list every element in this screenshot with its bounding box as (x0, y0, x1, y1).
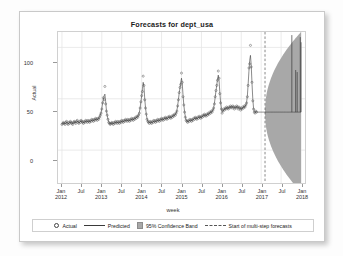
x-tick-mark (182, 184, 183, 187)
legend-label-actual: Actual (62, 223, 76, 229)
y-tick-label-100: 100 (3, 60, 33, 66)
x-tick-line2: 2014 (135, 194, 147, 200)
x-tick-mark (262, 184, 263, 187)
x-tick-line1: Jul (238, 188, 245, 194)
x-tick-line2: 2012 (55, 194, 67, 200)
x-tick-label: Jan2018 (287, 188, 317, 201)
open-circle-icon (54, 223, 59, 228)
x-tick-line1: Jul (198, 188, 205, 194)
x-tick-line1: Jul (158, 188, 165, 194)
legend-item-confidence-band: 95% Confidence Band (137, 222, 198, 228)
x-tick-line1: Jul (278, 188, 285, 194)
x-tick-mark (81, 184, 82, 187)
x-tick-mark (61, 184, 62, 187)
solid-line-icon (84, 225, 105, 226)
x-tick-line1: Jan (137, 188, 146, 194)
x-tick-line2: 2016 (216, 194, 228, 200)
x-tick-line1: Jul (78, 188, 85, 194)
x-tick-mark (282, 184, 283, 187)
x-tick-mark (222, 184, 223, 187)
x-tick-line1: Jan (97, 188, 106, 194)
forecast-plot-svg (58, 32, 305, 183)
legend-label-predicted: Predicted (108, 223, 130, 229)
x-tick-line1: Jul (118, 188, 125, 194)
x-tick-line1: Jan (257, 188, 266, 194)
actual-markers (61, 44, 258, 125)
forecast-report-card: Forecasts for dept_usa Actual 100 50 0 J… (19, 11, 325, 242)
legend-item-actual: Actual (54, 223, 77, 229)
x-tick-line1: Jan (217, 188, 226, 194)
x-tick-mark (101, 184, 102, 187)
chart-title: Forecasts for dept_usa (20, 20, 324, 29)
x-tick-mark (202, 184, 203, 187)
legend-item-predicted: Predicted (84, 223, 130, 229)
screenshot-root: Forecasts for dept_usa Actual 100 50 0 J… (0, 0, 343, 256)
x-tick-line1: Jan (298, 188, 307, 194)
x-tick-mark (302, 184, 303, 187)
y-tick-label-50: 50 (3, 109, 33, 115)
x-tick-mark (121, 184, 122, 187)
x-tick-mark (141, 184, 142, 187)
x-tick-mark (242, 184, 243, 187)
plot-area (57, 31, 306, 184)
dashed-line-icon (205, 225, 226, 226)
band-swatch-icon (137, 222, 143, 228)
x-tick-line2: 2013 (95, 194, 107, 200)
x-tick-line2: 2018 (296, 194, 308, 200)
chart-legend: Actual Predicted 95% Confidence Band Sta… (32, 219, 314, 232)
x-axis-label: week (20, 207, 326, 213)
x-tick-line1: Jan (57, 188, 66, 194)
x-tick-mark (161, 184, 162, 187)
legend-item-forecast-start: Start of multi-step forecasts (205, 223, 292, 229)
x-tick-line2: 2017 (256, 194, 268, 200)
y-tick-label-0: 0 (3, 158, 33, 164)
x-tick-line2: 2015 (175, 194, 187, 200)
legend-label-band: 95% Confidence Band (146, 223, 198, 229)
legend-label-forecast-start: Start of multi-step forecasts (229, 223, 292, 229)
x-tick-line1: Jan (177, 188, 186, 194)
